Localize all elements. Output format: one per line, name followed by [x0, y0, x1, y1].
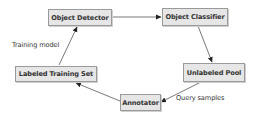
edge-training-set-to-detector — [59, 27, 77, 65]
node-labeled-training-set: Labeled Training Set — [15, 66, 97, 82]
node-annotator: Annotator — [120, 94, 161, 111]
node-unlabeled-pool: Unlabeled Pool — [183, 63, 245, 82]
node-label: Object Classifier — [165, 13, 224, 21]
node-label: Annotator — [122, 99, 159, 107]
node-object-classifier: Object Classifier — [162, 8, 228, 26]
edge-label-training-model: Training model — [12, 41, 59, 49]
node-label: Labeled Training Set — [19, 70, 93, 78]
node-object-detector: Object Detector — [48, 9, 112, 26]
edge-annotator-to-training-set — [76, 83, 120, 101]
node-label: Unlabeled Pool — [187, 69, 241, 77]
node-label: Object Detector — [51, 14, 108, 22]
edge-label-query-samples: Query samples — [176, 94, 224, 102]
edge-classifier-to-pool — [198, 26, 212, 62]
